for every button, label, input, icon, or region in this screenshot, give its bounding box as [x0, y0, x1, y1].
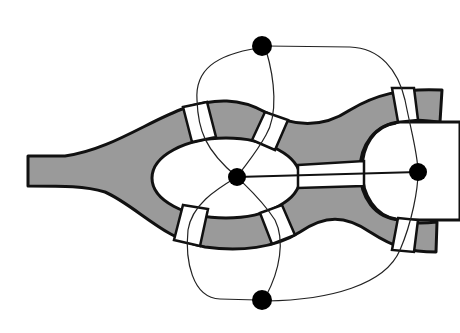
bridge-7	[392, 218, 418, 252]
node-south-bank	[252, 290, 272, 310]
bridge-6	[392, 88, 418, 122]
node-east-landmass	[409, 163, 427, 181]
node-kneiphof-island	[228, 168, 246, 186]
node-north-bank	[252, 36, 272, 56]
konigsberg-bridges-diagram	[0, 0, 460, 333]
